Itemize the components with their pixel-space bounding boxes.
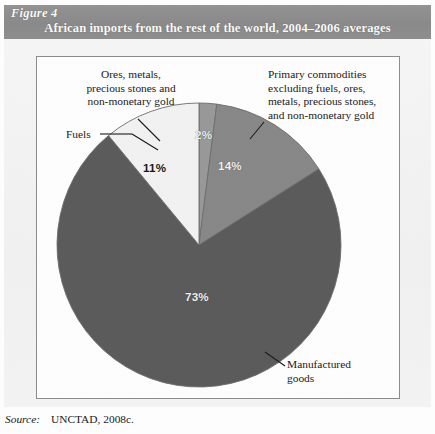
label-manufactured-goods: Manufactured goods [287, 358, 351, 385]
value-fuels-percent: 11% [143, 161, 166, 174]
value-manufactured-percent: 73% [185, 290, 209, 303]
label-fuels: Fuels [66, 128, 91, 142]
source-note: Source:UNCTAD, 2008c. [5, 413, 134, 425]
figure-title: African imports from the rest of the wor… [4, 21, 431, 36]
label-primary-commodities: Primary commodities excluding fuels, ore… [268, 68, 418, 122]
label-ores-metals: Ores, metals, precious stones and non-mo… [56, 68, 206, 109]
figure-screenshot: Figure 4 African imports from the rest o… [0, 0, 435, 434]
value-primary-percent: 14% [218, 159, 242, 172]
source-label: Source: [5, 413, 51, 425]
figure-number: Figure 4 [11, 6, 57, 21]
value-ores-percent: 2% [195, 128, 212, 141]
figure-header-bar: Figure 4 African imports from the rest o… [4, 5, 431, 39]
source-value: UNCTAD, 2008c. [51, 413, 134, 425]
